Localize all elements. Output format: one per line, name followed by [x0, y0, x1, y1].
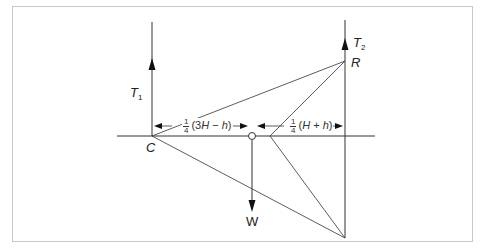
fraction: 14: [290, 118, 296, 135]
fraction: 14: [183, 118, 189, 135]
force-diagram: [0, 0, 484, 249]
dimension-left: 14(3H − h): [182, 118, 233, 135]
w-arrow-icon: [249, 200, 256, 212]
arrowhead-left-icon: [154, 123, 162, 129]
label-t2: T2: [353, 36, 365, 52]
dimension-right: 14(H + h): [289, 118, 333, 135]
arrowhead-right-icon: [335, 123, 343, 129]
label-r: R: [351, 56, 360, 69]
arrowhead-left-icon: [257, 123, 265, 129]
t2-arrow-icon: [342, 38, 349, 50]
t1-arrow-icon: [149, 58, 156, 70]
apex-bottom-line: [270, 136, 345, 238]
label-c: C: [146, 141, 155, 154]
arrowhead-right-icon: [240, 123, 248, 129]
label-t1: T1: [130, 86, 142, 102]
center-of-mass-circle: [249, 133, 256, 140]
label-w: W: [246, 215, 258, 228]
